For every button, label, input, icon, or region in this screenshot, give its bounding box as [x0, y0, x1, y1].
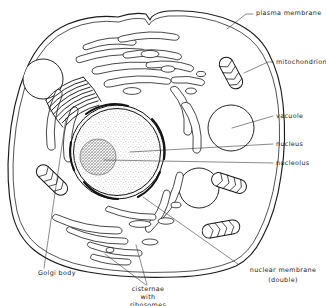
leader-mitochondrion — [244, 62, 273, 73]
label-mitochondrion: mitochondrion — [276, 58, 326, 66]
animal-cell-diagram: plasma membrane mitochondrion vacuole nu… — [0, 0, 326, 306]
label-plasma-membrane: plasma membrane — [256, 9, 321, 17]
nucleolus — [80, 139, 116, 175]
label-cisternae-line2: with — [141, 293, 156, 301]
vacuole-lower-right — [179, 168, 219, 208]
mitochondrion-bottom-right — [201, 219, 241, 239]
vacuole-right — [208, 105, 254, 151]
label-nucleolus: nucleolus — [276, 159, 310, 167]
mitochondrion-top-right — [217, 55, 245, 92]
label-cisternae-line1: cisternae — [132, 285, 165, 293]
label-cisternae-line3: ribosomes — [130, 301, 167, 306]
label-vacuole: vacuole — [276, 112, 303, 120]
label-nucleus: nucleus — [276, 140, 303, 148]
nucleus — [70, 104, 165, 199]
mitochondrion-left — [33, 162, 70, 198]
cisternae-group-upper — [76, 32, 206, 94]
label-nuclear-membrane-line2: (double) — [268, 276, 298, 284]
label-nuclear-membrane-line1: nuclear membrane — [250, 266, 316, 274]
cell-diagram-figure: plasma membrane mitochondrion vacuole nu… — [0, 0, 326, 306]
label-golgi-body: Golgi body — [38, 269, 76, 277]
